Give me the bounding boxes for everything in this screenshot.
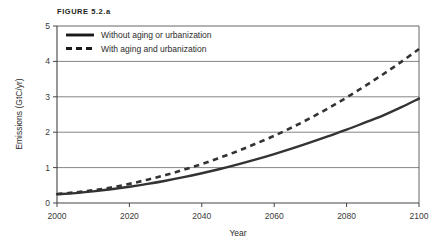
y-tick-label-0: 0 bbox=[45, 198, 50, 208]
x-tick-label-2020: 2020 bbox=[120, 211, 139, 221]
y-tick-label-3: 3 bbox=[45, 92, 50, 102]
x-tick-label-2080: 2080 bbox=[337, 211, 356, 221]
y-tick-label-1: 1 bbox=[45, 163, 50, 173]
legend-label-0: Without aging or urbanization bbox=[101, 30, 212, 40]
x-axis-ticks: 200020202040206020802100 bbox=[48, 203, 429, 221]
x-tick-label-2040: 2040 bbox=[192, 211, 211, 221]
x-tick-label-2060: 2060 bbox=[265, 211, 284, 221]
y-axis-title: Emissions (GtC/yr) bbox=[14, 78, 24, 149]
y-tick-label-5: 5 bbox=[45, 21, 50, 31]
figure-container: FIGURE 5.2.a 012345 20002020204020602080… bbox=[0, 0, 433, 245]
y-axis-ticks: 012345 bbox=[45, 21, 57, 208]
x-tick-label-2000: 2000 bbox=[48, 211, 67, 221]
y-tick-label-4: 4 bbox=[45, 56, 50, 66]
emissions-line-chart: 012345 200020202040206020802100 Without … bbox=[0, 0, 433, 245]
x-tick-label-2100: 2100 bbox=[410, 211, 429, 221]
legend-label-1: With aging and urbanization bbox=[101, 44, 207, 54]
x-axis-title: Year bbox=[229, 228, 246, 238]
y-tick-label-2: 2 bbox=[45, 127, 50, 137]
